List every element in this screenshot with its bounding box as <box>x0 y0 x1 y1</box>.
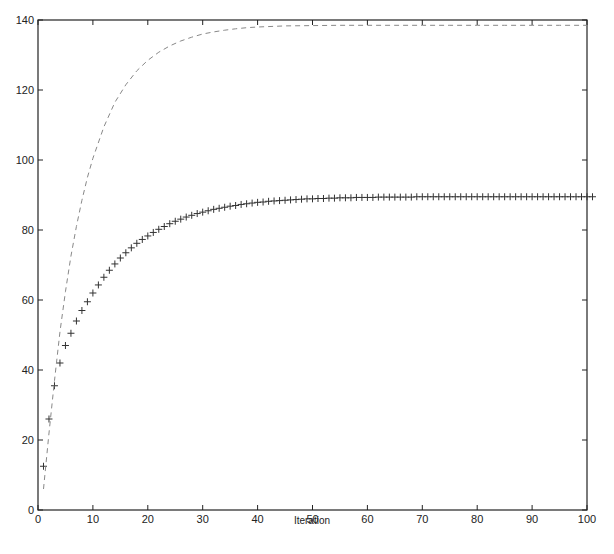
plus-marker <box>238 201 245 208</box>
plus-marker <box>56 360 63 367</box>
plus-marker <box>194 210 201 217</box>
y-tick-label: 60 <box>22 294 34 306</box>
plus-marker <box>221 204 228 211</box>
plus-marker-series <box>40 193 596 470</box>
plus-marker <box>205 207 212 214</box>
plus-marker <box>210 206 217 213</box>
x-tick-label: 100 <box>578 513 596 525</box>
plus-marker <box>62 342 69 349</box>
x-tick-label: 10 <box>87 513 99 525</box>
plus-marker <box>227 203 234 210</box>
plus-marker <box>89 290 96 297</box>
plus-marker <box>95 281 102 288</box>
plus-marker <box>216 205 223 212</box>
plus-marker <box>106 267 113 274</box>
plus-marker <box>249 200 256 207</box>
y-tick-label: 40 <box>22 364 34 376</box>
plus-marker <box>84 298 91 305</box>
plus-marker <box>150 229 157 236</box>
x-tick-label: 20 <box>142 513 154 525</box>
x-tick-label: 40 <box>251 513 263 525</box>
y-tick-label: 140 <box>16 14 34 26</box>
plus-marker <box>188 212 195 219</box>
plus-marker <box>128 244 135 251</box>
x-tick-label: 30 <box>197 513 209 525</box>
plus-marker <box>73 318 80 325</box>
plus-marker <box>117 255 124 262</box>
y-tick-label: 100 <box>16 154 34 166</box>
plus-marker <box>232 202 239 209</box>
plus-marker <box>133 240 140 247</box>
plus-marker <box>122 249 129 256</box>
axes: 0102030405060708090100020406080100120140 <box>16 14 597 525</box>
plus-marker <box>100 274 107 281</box>
plus-marker <box>144 232 151 239</box>
plus-marker <box>51 382 58 389</box>
x-tick-label: 80 <box>471 513 483 525</box>
x-tick-label: 60 <box>361 513 373 525</box>
x-axis-title: Iteration <box>294 515 330 526</box>
plus-marker <box>139 236 146 243</box>
plus-marker <box>45 416 52 423</box>
y-tick-label: 0 <box>28 504 34 516</box>
plus-marker <box>111 260 118 267</box>
plus-marker <box>199 209 206 216</box>
x-tick-label: 90 <box>526 513 538 525</box>
y-tick-label: 120 <box>16 84 34 96</box>
plus-marker <box>243 200 250 207</box>
x-tick-label: 0 <box>35 513 41 525</box>
x-tick-label: 70 <box>416 513 428 525</box>
y-tick-label: 20 <box>22 434 34 446</box>
plus-marker <box>260 199 267 206</box>
plus-marker <box>589 193 596 200</box>
plus-marker <box>67 330 74 337</box>
series-layer <box>40 25 596 489</box>
dashed-series-line <box>44 25 588 489</box>
line-chart: 0102030405060708090100020406080100120140… <box>0 0 614 554</box>
y-tick-label: 80 <box>22 224 34 236</box>
plus-marker <box>78 307 85 314</box>
